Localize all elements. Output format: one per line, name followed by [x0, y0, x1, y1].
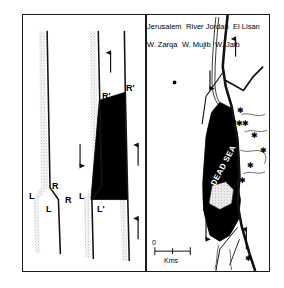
- epicenter-star-icon: ✱: [251, 132, 258, 140]
- label-a-R-lower: R: [65, 196, 72, 205]
- scale-unit-label: Kms: [164, 257, 178, 264]
- label-a-L-upper: L: [29, 192, 35, 201]
- label-a-L-lower: L: [46, 205, 52, 214]
- label-b-Lprime-right: L': [97, 205, 105, 214]
- diagram-a-fault: [33, 31, 60, 254]
- epicenter-star-icon: ✱: [245, 255, 252, 263]
- river-jordan-line: [212, 17, 221, 104]
- scale-bar: [155, 247, 190, 255]
- dead-sea-map-drawing: [147, 15, 269, 271]
- panel-dead-sea-map: ✱ ✱ ✱ ✱ ✱ ✱ ✱ ✱ ✱ Jerusalem River Jordan…: [146, 14, 270, 272]
- label-b-Rprime-left: R': [102, 92, 111, 101]
- epicenter-star-icon: ✱: [239, 177, 246, 185]
- label-a-R-upper: R: [52, 182, 59, 191]
- epicenter-star-icon: ✱: [237, 107, 244, 115]
- panel-pull-apart-model: R L R L R' R' L L': [22, 14, 146, 272]
- pull-apart-model-drawing: [23, 15, 145, 271]
- epicenter-star-icon: ✱: [242, 120, 249, 128]
- figure-root: R L R L R' R' L L': [0, 0, 284, 288]
- epicenter-star-icon: ✱: [260, 147, 267, 155]
- epicenter-star-icon: ✱: [247, 162, 254, 170]
- label-b-Rprime-right: R': [126, 84, 135, 93]
- scale-zero-label: 0: [152, 239, 156, 246]
- jerusalem-dot: [173, 81, 177, 85]
- diagram-b-basin: [80, 31, 138, 261]
- label-b-L-left: L: [79, 192, 85, 201]
